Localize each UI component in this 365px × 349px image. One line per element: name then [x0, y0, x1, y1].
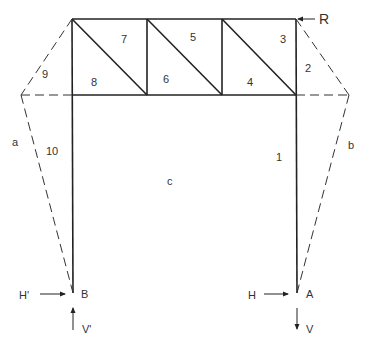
- member-label-5: 5: [190, 31, 196, 43]
- force-label-h-prime: H': [19, 289, 29, 301]
- right-column: [296, 19, 297, 293]
- dashed-line-right-lower: [297, 95, 349, 293]
- force-label-v: V: [306, 323, 314, 335]
- region-label-b: b: [348, 139, 354, 151]
- diagonal-member-3: [222, 19, 296, 95]
- member-label-7: 7: [121, 33, 127, 45]
- support-label-b: B: [81, 288, 88, 300]
- member-label-1: 1: [276, 151, 282, 163]
- member-label-3: 3: [280, 33, 286, 45]
- region-label-a: a: [12, 136, 19, 148]
- support-label-a: A: [306, 288, 314, 300]
- force-label-v-prime: V': [82, 323, 91, 335]
- diagonal-member-1: [72, 19, 147, 95]
- dashed-line-left-upper: [21, 19, 72, 95]
- dashed-line-right-upper: [296, 19, 349, 95]
- left-column: [72, 19, 73, 293]
- dashed-line-left-lower: [21, 95, 73, 293]
- truss-diagram: 1 2 3 4 5 6 7 8 9 10 a b c B A R H' V' H…: [0, 0, 365, 349]
- member-label-4: 4: [247, 76, 253, 88]
- member-label-6: 6: [163, 73, 169, 85]
- member-label-8: 8: [91, 76, 97, 88]
- member-label-2: 2: [305, 62, 311, 74]
- force-label-r: R: [319, 11, 329, 27]
- diagonal-member-2: [147, 19, 222, 95]
- member-label-10: 10: [46, 145, 58, 157]
- force-label-h: H: [248, 289, 256, 301]
- member-label-9: 9: [42, 68, 48, 80]
- region-label-c: c: [167, 175, 173, 187]
